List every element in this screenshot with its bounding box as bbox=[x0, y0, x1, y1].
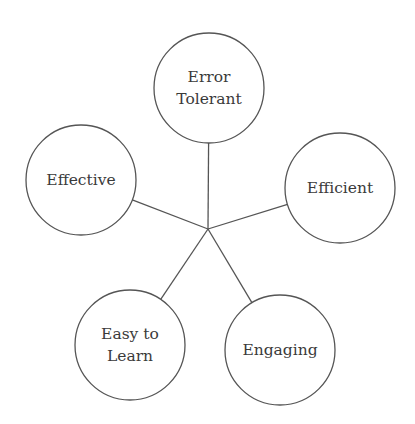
node-easy-to-learn: Easy toLearn bbox=[75, 290, 185, 400]
node-engaging: Engaging bbox=[225, 295, 335, 405]
node-label: Effective bbox=[46, 171, 115, 189]
node-label: Easy to bbox=[101, 325, 159, 343]
node-label: Engaging bbox=[242, 341, 317, 359]
spoke-error-tolerant bbox=[208, 143, 209, 229]
node-label: Tolerant bbox=[176, 90, 242, 108]
node-circle bbox=[75, 290, 185, 400]
spoke-easy-to-learn bbox=[161, 229, 208, 299]
node-error-tolerant: ErrorTolerant bbox=[154, 33, 264, 143]
node-effective: Effective bbox=[26, 125, 136, 235]
spoke-effective bbox=[132, 200, 208, 229]
node-label: Error bbox=[188, 68, 231, 86]
spoke-efficient bbox=[208, 204, 288, 229]
nodes: ErrorTolerantEfficientEngagingEasy toLea… bbox=[26, 33, 395, 405]
node-circle bbox=[154, 33, 264, 143]
usability-diagram: ErrorTolerantEfficientEngagingEasy toLea… bbox=[0, 0, 415, 424]
spokes bbox=[132, 143, 287, 303]
node-label: Efficient bbox=[307, 179, 374, 197]
node-label: Learn bbox=[107, 347, 153, 365]
spoke-engaging bbox=[208, 229, 252, 303]
node-efficient: Efficient bbox=[285, 133, 395, 243]
